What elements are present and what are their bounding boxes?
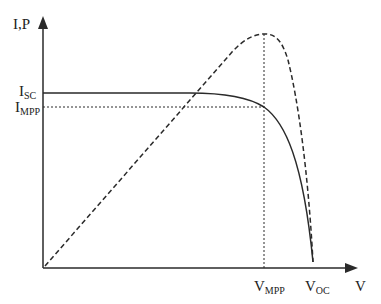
x-axis-label: V bbox=[355, 279, 366, 294]
iv-pv-diagram: I,P ISC IMPP VMPP VOC V bbox=[0, 0, 381, 304]
voc-label-main: V bbox=[305, 278, 316, 294]
diagram-canvas bbox=[0, 0, 381, 304]
impp-label-sub: MPP bbox=[20, 106, 40, 117]
iv-curve bbox=[43, 93, 313, 262]
x-axis-label-text: V bbox=[355, 278, 366, 294]
x-axis-arrow-icon bbox=[345, 263, 358, 273]
impp-label: IMPP bbox=[15, 100, 40, 117]
pv-curve bbox=[45, 34, 313, 266]
vmpp-label: VMPP bbox=[254, 279, 285, 296]
vmpp-label-main: V bbox=[254, 278, 265, 294]
y-axis-arrow-icon bbox=[38, 16, 48, 29]
voc-label: VOC bbox=[305, 279, 330, 296]
y-axis-label: I,P bbox=[13, 17, 30, 32]
voc-label-sub: OC bbox=[316, 285, 330, 296]
vmpp-label-sub: MPP bbox=[265, 285, 285, 296]
y-axis-label-text: I,P bbox=[13, 16, 30, 32]
isc-label: ISC bbox=[19, 84, 36, 101]
